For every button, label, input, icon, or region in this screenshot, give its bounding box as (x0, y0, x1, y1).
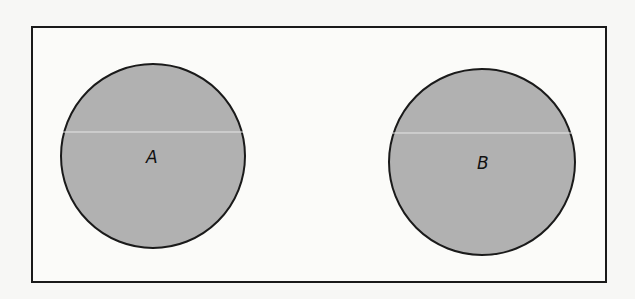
set-a-label: A (145, 147, 158, 167)
set-b-label: B (477, 153, 489, 173)
venn-diagram: A B (0, 0, 635, 299)
